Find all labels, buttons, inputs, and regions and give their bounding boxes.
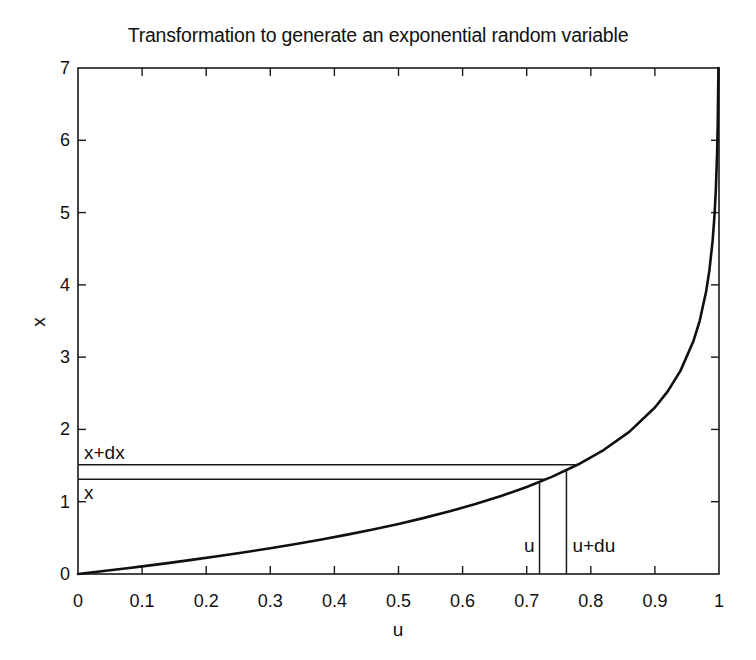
y-tick-label: 1 <box>60 492 70 512</box>
y-tick-label: 0 <box>60 564 70 584</box>
x-tick-label: 0.7 <box>514 591 539 611</box>
x-tick-label: 0 <box>73 591 83 611</box>
y-tick-label: 5 <box>60 203 70 223</box>
y-tick-label: 4 <box>60 275 70 295</box>
y-axis-tick-labels: 01234567 <box>60 58 70 584</box>
x-axis-ticks <box>142 68 655 574</box>
x-tick-label: 0.5 <box>386 591 411 611</box>
plot-area: 00.10.20.30.40.50.60.70.80.91 01234567 x… <box>0 0 756 660</box>
x-plus-dx-level-label: x+dx <box>84 442 125 463</box>
x-tick-label: 0.8 <box>578 591 603 611</box>
x-tick-label: 0.3 <box>258 591 283 611</box>
x-level-label: x <box>84 482 94 503</box>
y-axis-ticks <box>78 140 719 501</box>
y-tick-label: 3 <box>60 347 70 367</box>
x-tick-label: 0.1 <box>130 591 155 611</box>
x-axis-tick-labels: 00.10.20.30.40.50.60.70.80.91 <box>73 591 724 611</box>
y-tick-label: 6 <box>60 130 70 150</box>
x-tick-label: 0.6 <box>450 591 475 611</box>
axis-frame <box>78 68 719 574</box>
y-tick-label: 7 <box>60 58 70 78</box>
y-tick-label: 2 <box>60 419 70 439</box>
u-plus-du-position-label: u+du <box>572 535 615 556</box>
annotation-labels: xx+dxuu+du <box>84 442 615 556</box>
x-tick-label: 0.9 <box>642 591 667 611</box>
x-tick-label: 0.4 <box>322 591 347 611</box>
x-tick-label: 1 <box>714 591 724 611</box>
y-axis-title: x <box>28 317 49 327</box>
x-axis-title: u <box>393 619 404 640</box>
figure-canvas: Transformation to generate an exponentia… <box>0 0 756 660</box>
u-position-label: u <box>524 535 535 556</box>
annotation-guides <box>78 465 577 574</box>
data-curve <box>78 68 718 574</box>
x-tick-label: 0.2 <box>194 591 219 611</box>
